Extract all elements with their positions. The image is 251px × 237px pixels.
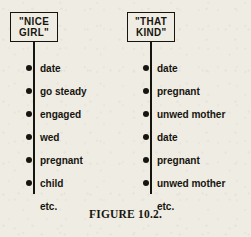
node-label: date [157, 62, 178, 74]
node-label: pregnant [40, 154, 83, 166]
node-dot-icon [26, 88, 32, 94]
node-dot-icon [143, 134, 149, 140]
node-label: pregnant [157, 85, 200, 97]
node-nice-girl-4: pregnant [26, 153, 85, 167]
node-label: unwed mother [157, 177, 225, 189]
node-label: date [40, 62, 61, 74]
node-nice-girl-0: date [26, 61, 61, 75]
node-label: wed [40, 131, 59, 143]
branch-label-box-nice-girl: "NICE GIRL" [10, 12, 58, 42]
node-that-kind-4: pregnant [143, 153, 202, 167]
node-dot-icon [26, 65, 32, 71]
node-that-kind-0: date [143, 61, 178, 75]
node-label: pregnant [157, 154, 200, 166]
figure-caption: FIGURE 10.2. [0, 208, 251, 220]
node-that-kind-2: unwed mother [143, 107, 228, 121]
node-label: unwed mother [157, 108, 225, 120]
node-nice-girl-5: child [26, 176, 64, 190]
node-label: engaged [40, 108, 81, 120]
branch-label-line-2: KIND" [136, 27, 167, 38]
node-dot-icon [26, 111, 32, 117]
node-dot-icon [143, 111, 149, 117]
node-that-kind-5: unwed mother [143, 176, 228, 190]
node-dot-icon [26, 134, 32, 140]
figure-10-2: "NICE GIRL" datego steadyengagedwedpregn… [0, 0, 251, 237]
branch-label-box-that-kind: "THAT KIND" [127, 12, 175, 42]
node-nice-girl-2: engaged [26, 107, 83, 121]
node-dot-icon [26, 180, 32, 186]
node-that-kind-3: date [143, 130, 178, 144]
node-label: child [40, 177, 63, 189]
node-nice-girl-1: go steady [26, 84, 89, 98]
node-label: date [157, 131, 178, 143]
node-nice-girl-3: wed [26, 130, 60, 144]
node-dot-icon [26, 157, 32, 163]
node-label: go steady [40, 85, 87, 97]
node-dot-icon [143, 157, 149, 163]
node-dot-icon [143, 65, 149, 71]
node-dot-icon [143, 180, 149, 186]
node-that-kind-1: pregnant [143, 84, 202, 98]
branch-label-line-2: GIRL" [19, 27, 49, 38]
node-dot-icon [143, 88, 149, 94]
